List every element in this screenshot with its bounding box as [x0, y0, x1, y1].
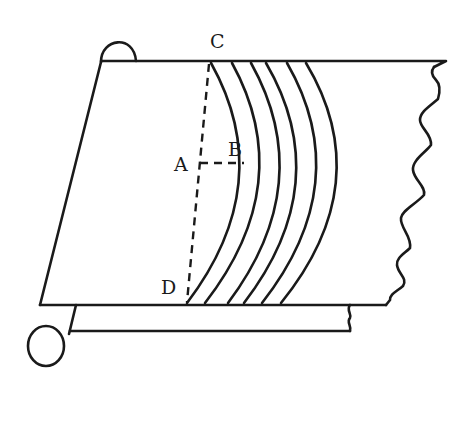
left-edge — [40, 62, 101, 305]
chord-cd — [187, 64, 209, 302]
arc-6 — [281, 63, 337, 303]
bottom-roller-cap — [28, 326, 64, 366]
bottom-roller-tear — [349, 305, 351, 331]
label-a: A — [174, 155, 188, 174]
label-b: B — [228, 140, 242, 159]
arc-3 — [228, 63, 280, 303]
torn-right-edge — [386, 67, 439, 305]
top-roller-cap — [101, 42, 136, 62]
diagram-canvas: C A B D — [0, 0, 472, 422]
roll-diagram — [0, 0, 472, 422]
label-c: C — [210, 32, 225, 51]
arc-5 — [262, 63, 316, 303]
bottom-roller-side — [69, 305, 76, 334]
top-edge — [101, 61, 446, 67]
arc-1 — [187, 63, 239, 303]
label-d: D — [161, 278, 176, 297]
